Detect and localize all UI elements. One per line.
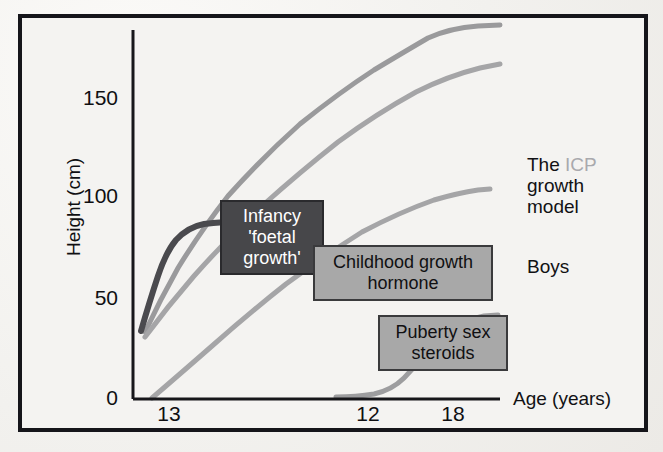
x-tick-18: 18: [423, 402, 483, 426]
y-tick-50: 50: [66, 286, 118, 310]
boys-note: Boys: [527, 256, 569, 277]
callout-infancy: Infancy 'foetal growth': [220, 200, 324, 275]
callout-childhood: Childhood growth hormone: [313, 245, 493, 301]
y-tick-150: 150: [66, 86, 118, 110]
icp-note-prefix: The: [527, 154, 565, 175]
icp-model-note: The ICP growth model: [527, 133, 597, 217]
chart-canvas: [0, 0, 663, 452]
figure-page: Height (cm) 150 100 50 0 13 12 18 The IC…: [0, 0, 663, 452]
callout-puberty: Puberty sex steroids: [378, 315, 508, 371]
icp-note-rest: growth model: [527, 175, 584, 217]
age-axis-note: Age (years): [513, 388, 611, 409]
y-tick-100: 100: [66, 184, 118, 208]
x-tick-13: 13: [139, 402, 199, 426]
x-tick-12: 12: [338, 402, 398, 426]
y-tick-0: 0: [66, 386, 118, 410]
icp-note-emphasis: ICP: [565, 154, 597, 175]
